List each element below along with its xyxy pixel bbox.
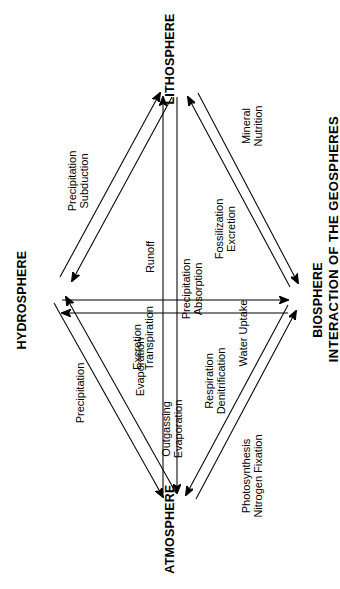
edge-label-line: Outgassing [160, 400, 172, 459]
node-label-hydrosphere: HYDROSPHERE [15, 251, 29, 350]
edge-label-excretion-transpiration: Excretion Transpiration [131, 306, 156, 370]
figure-caption: INTERACTION OF THE GEOSPHERES [326, 116, 340, 362]
node-label-atmosphere: ATMOSPHERE [163, 484, 177, 573]
edge-label-line: Respiration [203, 348, 215, 415]
edge-label-runoff: Runoff [144, 241, 156, 273]
edge-label-line: Subduction [78, 151, 90, 212]
figure-rotator: ATMOSPHERE HYDROSPHERE LITHOSPHERE BIOSP… [0, 0, 340, 589]
node-label-biosphere: BIOSPHERE [311, 262, 325, 337]
edge-label-line: Absorption [192, 259, 204, 320]
edge-label-line: Runoff [144, 241, 156, 273]
edge-label-line: Precipitation [66, 151, 78, 212]
edge-label-line: Water Uptake [237, 300, 249, 367]
edge-label-line: Fossilization [213, 199, 225, 260]
edge-label-line: Precipitation [74, 363, 86, 424]
edge-label-fossilization-excretion: Fossilization Excretion [213, 199, 238, 260]
edge-label-line: Nutrition [252, 106, 264, 147]
edge-label-mineral-nutrition: Mineral Nutrition [240, 106, 265, 147]
edge-label-line: Transpiration [143, 306, 155, 370]
edge-label-photosynthesis-nitrogen-fixation: Photosynthesis Nitrogen Fixation [240, 434, 265, 517]
edge-label-outgassing-evaporation: Outgassing Evaporation [160, 400, 185, 459]
edge-label-line: Photosynthesis [240, 434, 252, 517]
edge-label-line: Excretion [225, 199, 237, 260]
edge-label-respiration-denitrification: Respiration Denitrification [203, 348, 228, 415]
edge-label-line: Denitrification [215, 348, 227, 415]
edge-label-water-uptake: Water Uptake [237, 300, 249, 367]
edge-label-line: Precipitation [180, 259, 192, 320]
edge-label-precipitation-subduction: Precipitation Subduction [66, 151, 91, 212]
edge-label-line: Evaporation [172, 400, 184, 459]
edge-label-line: Excretion [131, 306, 143, 370]
edge-label-precipitation: Precipitation [74, 363, 86, 424]
geosphere-interaction-diagram: ATMOSPHERE HYDROSPHERE LITHOSPHERE BIOSP… [0, 0, 340, 589]
node-label-lithosphere: LITHOSPHERE [163, 13, 177, 104]
edge-label-line: Mineral [240, 106, 252, 147]
edge-label-precipitation-absorption: Precipitation Absorption [180, 259, 205, 320]
edge-label-line: Nitrogen Fixation [252, 434, 264, 517]
